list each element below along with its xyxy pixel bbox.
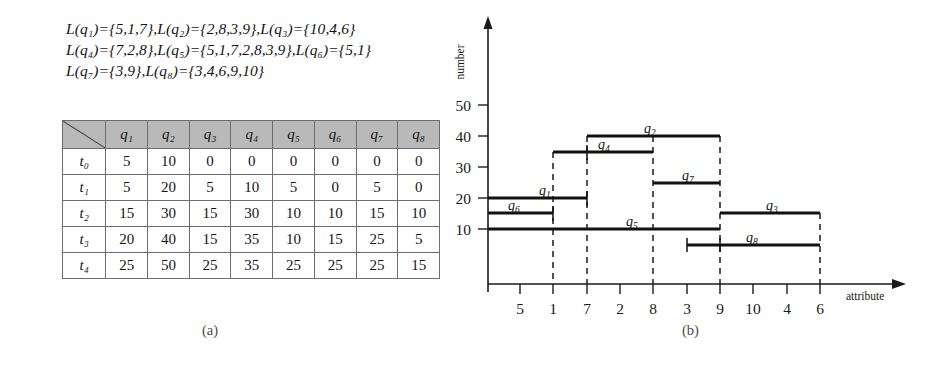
cell: 10 — [231, 175, 273, 201]
data-table-wrapper: q₁ q₂ q₃ q₄ q₅ q₆ q₇ q₈ t₀ 5 10 0 0 0 — [62, 120, 440, 279]
cell: 10 — [314, 201, 356, 227]
series-label-q2: q2 — [644, 121, 656, 138]
row-header-t2: t₂ — [63, 201, 106, 227]
cell: 0 — [398, 149, 440, 175]
table-row: t₁ 5 20 5 10 5 0 5 0 — [63, 175, 440, 201]
x-tick-label-6: 9 — [716, 300, 724, 317]
y-tick-label-10: 10 — [456, 221, 472, 238]
cell: 0 — [398, 175, 440, 201]
panel-b-chart: 50 40 30 20 10 number 5 1 7 2 8 3 9 10 4 — [440, 0, 930, 372]
row-header-t4: t₄ — [63, 253, 106, 279]
x-tick-label-1: 1 — [549, 300, 557, 317]
cell: 0 — [314, 175, 356, 201]
col-header-q3: q₃ — [189, 121, 231, 149]
cell: 5 — [356, 175, 398, 201]
data-table: q₁ q₂ q₃ q₄ q₅ q₆ q₇ q₈ t₀ 5 10 0 0 0 — [62, 120, 440, 279]
y-tick-label-50: 50 — [456, 97, 472, 114]
cell: 5 — [398, 227, 440, 253]
panel-a-table-and-formulas: L(q₁)={5,1,7},L(q₂)={2,8,3,9},L(q₃)={10,… — [0, 0, 440, 372]
col-header-q6: q₆ — [314, 121, 356, 149]
formula-block: L(q₁)={5,1,7},L(q₂)={2,8,3,9},L(q₃)={10,… — [66, 18, 371, 81]
table-corner-cell — [63, 121, 106, 149]
y-axis-arrow-icon — [484, 16, 493, 29]
col-header-q4: q₄ — [231, 121, 273, 149]
table-body: t₀ 5 10 0 0 0 0 0 0 t₁ 5 20 5 10 5 — [63, 149, 440, 279]
cell: 25 — [189, 253, 231, 279]
cell: 15 — [106, 201, 148, 227]
series-q5: q5 — [488, 214, 720, 231]
y-axis — [478, 16, 493, 292]
x-tick-label-3: 2 — [616, 300, 624, 317]
formula-line-1: L(q₁)={5,1,7},L(q₂)={2,8,3,9},L(q₃)={10,… — [66, 18, 371, 39]
cell: 0 — [356, 149, 398, 175]
x-axis-arrow-icon — [892, 279, 906, 289]
col-header-q7: q₇ — [356, 121, 398, 149]
cell: 35 — [231, 227, 273, 253]
x-tick-label-2: 7 — [583, 300, 591, 317]
series-label-q1: q1 — [539, 183, 551, 200]
x-axis — [488, 279, 906, 294]
x-tick-label-7: 10 — [745, 300, 761, 317]
col-header-q2: q₂ — [148, 121, 190, 149]
table-row: t₃ 20 40 15 35 10 15 25 5 — [63, 227, 440, 253]
series-label-q6: q6 — [508, 198, 520, 215]
cell: 50 — [148, 253, 190, 279]
cell: 30 — [148, 201, 190, 227]
cell: 35 — [231, 253, 273, 279]
y-tick-label-40: 40 — [456, 128, 472, 145]
y-tick-label-30: 30 — [456, 159, 472, 176]
cell: 25 — [356, 227, 398, 253]
cell: 20 — [148, 175, 190, 201]
x-tick-label-4: 8 — [649, 300, 657, 317]
series-label-q8: q8 — [746, 230, 758, 247]
x-tick-label-5: 3 — [683, 300, 691, 317]
cell: 10 — [273, 201, 315, 227]
cell: 0 — [231, 149, 273, 175]
col-header-q8: q₈ — [398, 121, 440, 149]
table-row: t₂ 15 30 15 30 10 10 15 10 — [63, 201, 440, 227]
caption-b: (b) — [682, 322, 699, 339]
x-tick-label-8: 4 — [783, 300, 791, 317]
table-row: t₀ 5 10 0 0 0 0 0 0 — [63, 149, 440, 175]
caption-a: (a) — [202, 322, 218, 339]
interval-step-chart: 50 40 30 20 10 number 5 1 7 2 8 3 9 10 4 — [440, 0, 930, 320]
series-q7: q7 — [653, 168, 720, 185]
cell: 15 — [314, 227, 356, 253]
cell: 10 — [398, 201, 440, 227]
series-label-q3: q3 — [766, 198, 778, 215]
table-row: t₄ 25 50 25 35 25 25 25 15 — [63, 253, 440, 279]
cell: 5 — [106, 149, 148, 175]
cell: 0 — [189, 149, 231, 175]
cell: 25 — [314, 253, 356, 279]
series-q3: q3 — [720, 198, 820, 284]
dashed-connectors — [553, 136, 720, 284]
series-q2: q2 — [587, 121, 720, 138]
x-axis-title: attribute — [846, 290, 884, 302]
x-tick-label-0: 5 — [516, 300, 524, 317]
cell: 5 — [189, 175, 231, 201]
x-tick-label-9: 6 — [816, 300, 824, 317]
formula-line-3: L(q₇)={3,9},L(q₈)={3,4,6,9,10} — [66, 60, 371, 81]
cell: 0 — [314, 149, 356, 175]
cell: 40 — [148, 227, 190, 253]
series-label-q5: q5 — [626, 214, 638, 231]
col-header-q5: q₅ — [273, 121, 315, 149]
cell: 30 — [231, 201, 273, 227]
series-label-q7: q7 — [682, 168, 695, 185]
cell: 20 — [106, 227, 148, 253]
series-q1: q1 — [488, 183, 587, 206]
y-tick-label-20: 20 — [456, 190, 472, 207]
cell: 0 — [273, 149, 315, 175]
cell: 15 — [356, 201, 398, 227]
row-header-t3: t₃ — [63, 227, 106, 253]
cell: 15 — [189, 227, 231, 253]
diagonal-slash-icon — [63, 121, 105, 148]
series-q8: q8 — [687, 230, 820, 252]
y-axis-title: number — [454, 44, 466, 79]
cell: 15 — [398, 253, 440, 279]
series-label-q4: q4 — [598, 137, 610, 154]
formula-line-2: L(q₄)={7,2,8},L(q₅)={5,1,7,2,8,3,9},L(q₆… — [66, 39, 371, 60]
cell: 10 — [148, 149, 190, 175]
row-header-t1: t₁ — [63, 175, 106, 201]
cell: 25 — [356, 253, 398, 279]
